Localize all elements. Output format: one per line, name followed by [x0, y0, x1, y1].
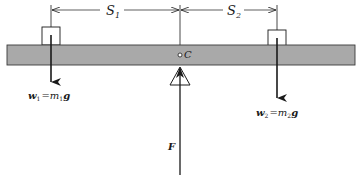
weight-2-label: w2=m2g	[256, 107, 298, 119]
force-label: F	[167, 141, 176, 152]
dimension-lines	[51, 5, 277, 45]
lever-diagram: S1 S2 C F w1=m1g w2=m2g	[0, 0, 360, 183]
pivot-point	[178, 53, 182, 57]
pivot-label: C	[184, 49, 192, 60]
s2-label: S2	[227, 3, 241, 20]
s1-label: S1	[106, 3, 120, 20]
weight-1-label: w1=m1g	[28, 90, 70, 102]
